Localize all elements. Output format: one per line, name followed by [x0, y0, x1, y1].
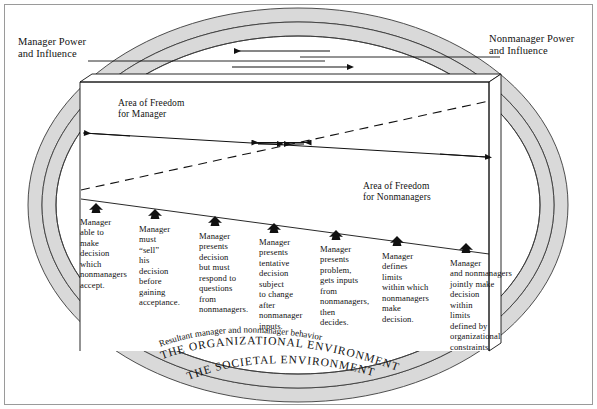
continuum-of-leadership-behavior-figure: Resultant manager and nonmanager behavio… — [0, 0, 597, 409]
step-label-5: Manager presents problem, gets inputs fr… — [320, 244, 382, 328]
step-label-1: Manager able to make decision which nonm… — [80, 217, 142, 290]
step-label-2: Manager must “sell” his decision before … — [139, 224, 201, 308]
manager-power-label: Manager Power and Influence — [18, 36, 86, 60]
box-top-face — [80, 74, 501, 82]
step-label-4: Manager presents tentative decision subj… — [259, 237, 321, 331]
area-of-freedom-nonmanagers-label: Area of Freedom for Nonmanagers — [363, 181, 431, 203]
step-label-6: Manager defines limits within which nonm… — [382, 251, 444, 324]
area-of-freedom-manager-label: Area of Freedom for Manager — [118, 98, 184, 120]
step-label-7: Manager and nonmanagers jointly make dec… — [450, 258, 534, 352]
step-label-3: Manager presents decision but must respo… — [199, 231, 261, 315]
nonmanager-power-label: Nonmanager Power and Influence — [489, 33, 574, 57]
